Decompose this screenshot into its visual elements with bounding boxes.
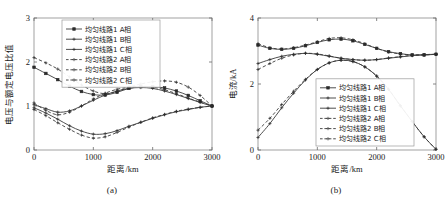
legend-label: 均匀线路2 B相 (85, 65, 131, 74)
chart-a-svg: 01000200030000123距离/km电压与额定电压比值均匀线路1 A相均… (0, 0, 224, 197)
svg-text:2: 2 (250, 79, 254, 89)
svg-text:距离/km: 距离/km (107, 164, 139, 174)
series-markers (257, 38, 438, 56)
legend: 均匀线路1 A相均匀线路1 B相均匀线路1 C相均匀线路2 A相均匀线路2 B相… (62, 20, 160, 87)
panel-a-caption: (a) (0, 185, 224, 195)
legend-label: 均匀线路2 A相 (85, 55, 131, 64)
series-line (258, 39, 436, 55)
svg-text:1000: 1000 (309, 152, 326, 162)
svg-text:距离/km: 距离/km (331, 164, 363, 174)
legend-label: 均匀线路1 B相 (339, 94, 385, 103)
svg-text:0: 0 (256, 152, 260, 162)
svg-text:2000: 2000 (144, 152, 161, 162)
svg-text:3000: 3000 (428, 152, 445, 162)
legend-label: 均匀线路1 C相 (339, 104, 386, 113)
legend-label: 均匀线路1 A相 (339, 83, 385, 92)
svg-text:1: 1 (26, 101, 30, 111)
svg-text:2000: 2000 (368, 152, 385, 162)
series-line (34, 106, 212, 138)
legend-label: 均匀线路1 C相 (85, 45, 132, 54)
svg-text:0: 0 (26, 145, 30, 155)
legend-label: 均匀线路2 B相 (339, 124, 385, 133)
svg-text:1000: 1000 (85, 152, 102, 162)
y-axis-label: 电压与额定电压比值 (4, 44, 14, 125)
panel-b-caption: (b) (224, 185, 448, 195)
svg-text:0: 0 (250, 145, 254, 155)
svg-text:3: 3 (26, 13, 30, 23)
chart-b-svg: 0100020003000024距离/km电流/kA均匀线路1 A相均匀线路1 … (224, 0, 448, 197)
series-markers (256, 52, 437, 65)
series-line (34, 88, 212, 113)
svg-text:0: 0 (32, 152, 36, 162)
svg-text:4: 4 (250, 13, 255, 23)
series-line (258, 38, 436, 55)
legend: 均匀线路1 A相均匀线路1 B相均匀线路1 C相均匀线路2 A相均匀线路2 B相… (316, 79, 414, 146)
svg-text:2: 2 (26, 57, 30, 67)
y-axis-label: 电流/kA (228, 68, 238, 100)
legend-label: 均匀线路2 A相 (339, 114, 385, 123)
svg-text:3000: 3000 (204, 152, 221, 162)
legend-label: 均匀线路1 A相 (85, 25, 131, 34)
panel-a: 01000200030000123距离/km电压与额定电压比值均匀线路1 A相均… (0, 0, 224, 197)
legend-label: 均匀线路2 C相 (339, 134, 386, 143)
panel-b: 0100020003000024距离/km电流/kA均匀线路1 A相均匀线路1 … (224, 0, 448, 197)
legend-label: 均匀线路1 B相 (85, 35, 131, 44)
legend-label: 均匀线路2 C相 (85, 76, 132, 85)
figure-container: 01000200030000123距离/km电压与额定电压比值均匀线路1 A相均… (0, 0, 448, 197)
